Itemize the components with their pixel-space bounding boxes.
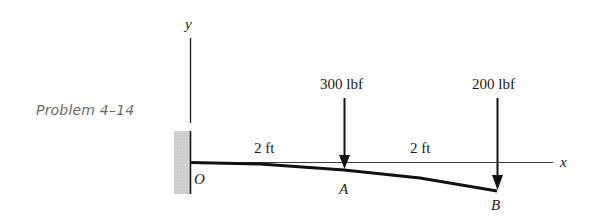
- origin-label: O: [194, 171, 205, 187]
- y-axis-label: y: [183, 16, 192, 32]
- arrow-down-icon: [492, 175, 503, 190]
- load-label-b: 200 lbf: [472, 76, 515, 92]
- cantilever-beam-diagram: y x O 2 ft 2 ft 300 lbf 200 lbf A B: [0, 0, 592, 220]
- fixed-wall-support: [174, 131, 190, 194]
- x-axis-label: x: [559, 154, 567, 170]
- load-label-a: 300 lbf: [320, 76, 363, 92]
- dimension-label-oa: 2 ft: [254, 140, 275, 156]
- point-label-a: A: [338, 181, 349, 197]
- point-label-b: B: [491, 197, 500, 213]
- dimension-label-ab: 2 ft: [410, 140, 431, 156]
